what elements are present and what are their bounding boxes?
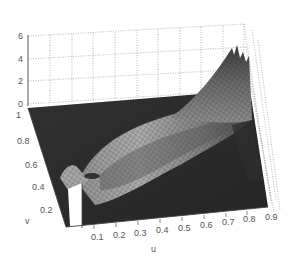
v-tick: 0.4 — [32, 182, 45, 192]
u-tick: 0.4 — [156, 225, 169, 235]
u-tick: 0.2 — [113, 230, 126, 240]
z-tick: 4 — [18, 54, 23, 64]
surface-plot: 6 4 2 0 1 0.8 0.6 0.4 0.2 v 0.1 0.2 0.3 … — [0, 0, 302, 262]
u-tick: 0.5 — [178, 223, 191, 233]
v-tick: 1 — [16, 110, 21, 120]
surface-cutout — [68, 183, 82, 228]
z-tick: 6 — [18, 31, 23, 41]
v-axis-label: v — [25, 216, 30, 226]
u-tick: 0.7 — [222, 217, 235, 227]
z-axis-ticks: 6 4 2 0 — [18, 31, 23, 109]
z-tick: 2 — [18, 76, 23, 86]
v-tick: 0.6 — [25, 160, 38, 170]
u-tick: 0.6 — [200, 220, 213, 230]
v-tick: 0.8 — [17, 136, 30, 146]
u-tick: 0.1 — [91, 232, 104, 242]
z-tick: 0 — [18, 99, 23, 109]
u-tick: 0.9 — [265, 212, 278, 222]
u-axis-label: u — [151, 244, 156, 254]
u-tick: 0.8 — [243, 214, 256, 224]
u-tick: 0.3 — [134, 228, 147, 238]
v-tick: 0.2 — [40, 205, 53, 215]
